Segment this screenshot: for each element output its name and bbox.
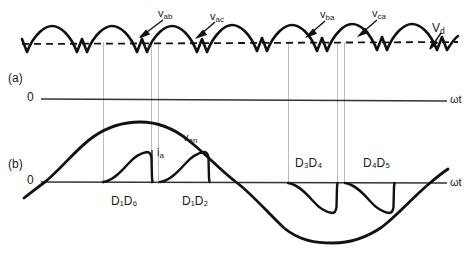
signal-label-vab: vab — [158, 8, 172, 19]
panel-b-axis-label: ωt — [450, 177, 462, 188]
average-dc-dashed-line — [22, 42, 458, 44]
signal-base-vd: V — [432, 21, 440, 35]
signal-base-van: v — [183, 131, 189, 143]
panel-b-identifier: (b) — [8, 158, 23, 170]
waveform-figure: (a) (b) 0 0 ωt ωt vab vac vba vca Vd van… — [0, 0, 472, 253]
signal-sub-vba: ba — [326, 13, 335, 22]
signal-sub-vab: ab — [164, 12, 173, 21]
panel-a-zero-axis — [41, 99, 447, 101]
signal-label-vac: vac — [210, 11, 224, 22]
signal-label-vba: vba — [320, 9, 334, 20]
signal-base-vba: v — [320, 8, 326, 20]
device-label-d4d5: D₄D₅ — [363, 157, 390, 169]
signal-sub-van: an — [189, 136, 198, 145]
signal-label-vca: vca — [372, 8, 386, 19]
panel-a-identifier: (a) — [8, 72, 23, 84]
signal-base-vac: v — [210, 10, 216, 22]
panel-a-zero-label: 0 — [27, 91, 34, 103]
panel-a-axis-label: ωt — [450, 94, 462, 105]
ripple-waveform — [22, 24, 458, 52]
signal-sub-vca: ca — [378, 12, 386, 21]
device-label-d1d2: D₁D₂ — [182, 195, 208, 207]
signal-label-vd: Vd — [432, 22, 445, 34]
panel-b-zero-label: 0 — [27, 174, 34, 186]
signal-base-vab: v — [158, 7, 164, 19]
signal-label-ia: ia — [157, 147, 164, 158]
signal-sub-vac: ac — [216, 15, 224, 24]
signal-base-vca: v — [372, 7, 378, 19]
device-label-d3d4: D₃D₄ — [295, 157, 322, 169]
waveform-canvas — [0, 0, 472, 253]
device-label-d1d6: D₁D₆ — [111, 195, 137, 207]
signal-sub-vd: d — [440, 26, 445, 36]
signal-sub-ia: a — [159, 151, 163, 160]
signal-label-van: van — [183, 132, 197, 143]
